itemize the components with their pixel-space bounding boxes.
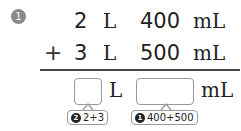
row2-milliliters: 500	[140, 41, 180, 65]
answer-liter-unit: L	[109, 78, 122, 102]
answer-milliliter-unit: mL	[201, 78, 233, 102]
answer-milliliters-box[interactable]	[136, 78, 194, 105]
hint-milliliters: 1 400+500	[131, 110, 198, 125]
hint-liters-text: 2+3	[83, 111, 104, 124]
row2-liters: 3	[74, 41, 87, 65]
step-number-icon: 1	[135, 113, 145, 123]
answer-liters-box[interactable]	[74, 78, 102, 105]
step-number-icon: 2	[71, 113, 81, 123]
row1-milliliter-unit: mL	[193, 9, 225, 33]
hint-milliliters-text: 400+500	[147, 111, 194, 124]
sum-line	[40, 69, 240, 71]
row1-liters: 2	[74, 9, 87, 33]
plus-operator: +	[44, 41, 62, 65]
row1-liter-unit: L	[103, 9, 116, 33]
row1-milliliters: 400	[140, 9, 180, 33]
problem-number-badge: 1	[11, 9, 26, 24]
hint-liters: 2 2+3	[67, 110, 108, 125]
row2-milliliter-unit: mL	[193, 41, 225, 65]
row2-liter-unit: L	[103, 41, 116, 65]
